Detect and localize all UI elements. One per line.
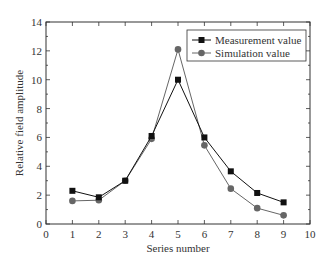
- legend-label: Simulation value: [215, 47, 290, 59]
- y-tick-label: 14: [31, 16, 43, 28]
- x-tick-label: 8: [254, 228, 260, 240]
- y-tick-label: 12: [31, 45, 42, 57]
- y-axis-label: Relative field amplitude: [13, 70, 25, 176]
- x-tick-label: 4: [149, 228, 155, 240]
- y-tick-label: 0: [37, 218, 43, 230]
- x-tick-label: 5: [175, 228, 181, 240]
- y-tick-label: 2: [37, 189, 43, 201]
- x-tick-label: 10: [305, 228, 317, 240]
- legend: Measurement valueSimulation value: [187, 30, 306, 61]
- y-tick-label: 8: [37, 103, 43, 115]
- y-tick-label: 6: [37, 131, 43, 143]
- x-tick-label: 7: [228, 228, 234, 240]
- x-axis-label: Series number: [146, 242, 210, 254]
- line-chart: 012345678910 02468101214 Series number R…: [0, 0, 329, 264]
- legend-label: Measurement value: [215, 34, 302, 46]
- x-tick-label: 2: [96, 228, 102, 240]
- y-tick-label: 10: [31, 74, 43, 86]
- y-tick-label: 4: [37, 160, 43, 172]
- x-tick-label: 6: [202, 228, 208, 240]
- x-tick-label: 3: [122, 228, 128, 240]
- series-group: [69, 46, 287, 219]
- series-measurement-value: [69, 77, 286, 206]
- x-tick-label: 9: [281, 228, 287, 240]
- x-tick-label: 1: [70, 228, 76, 240]
- x-tick-label: 0: [43, 228, 49, 240]
